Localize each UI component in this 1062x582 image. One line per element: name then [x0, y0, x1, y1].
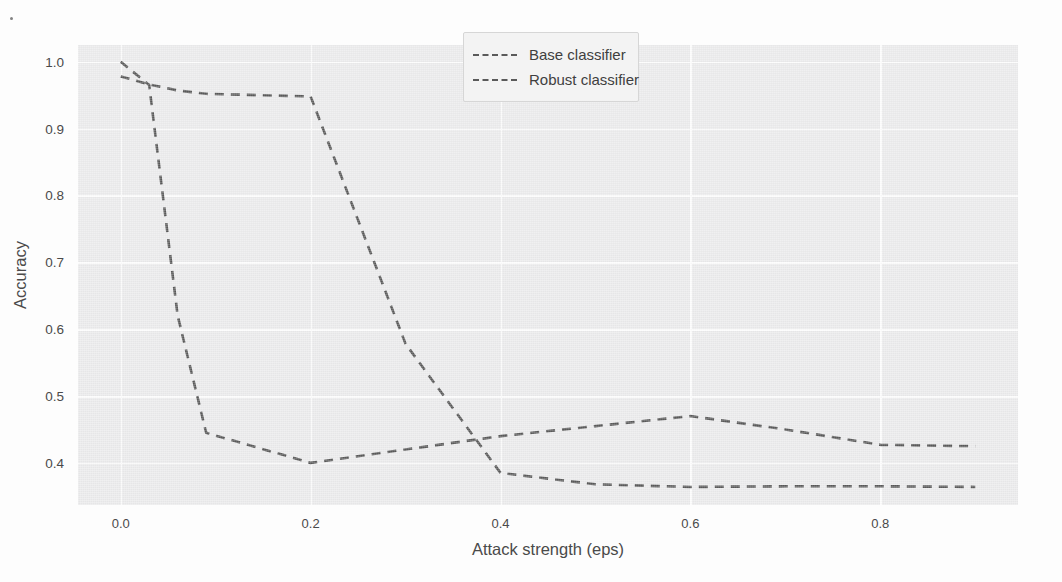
x-tick-label: 0.6	[681, 516, 699, 531]
x-axis-label: Attack strength (eps)	[472, 540, 624, 559]
x-tick-label: 0.0	[112, 516, 130, 531]
legend-dash-icon	[473, 79, 517, 81]
x-tick-label: 0.4	[491, 516, 509, 531]
data-curves	[78, 45, 1018, 505]
legend-label: Base classifier	[529, 46, 626, 63]
legend-dash-icon	[473, 54, 517, 56]
plot-area	[78, 45, 1018, 505]
x-tick-label: 0.8	[871, 516, 889, 531]
x-tick-label: 0.2	[302, 516, 320, 531]
chart-figure: Accuracy 0.40.50.60.70.80.91.0 0.00.20.4…	[0, 0, 1062, 582]
series-line	[121, 76, 976, 487]
series-line	[121, 62, 976, 463]
legend-label: Robust classifier	[529, 71, 639, 88]
legend-item-base-classifier: Base classifier	[473, 42, 628, 67]
legend-item-robust-classifier: Robust classifier	[473, 67, 628, 92]
legend: Base classifier Robust classifier	[463, 32, 639, 102]
